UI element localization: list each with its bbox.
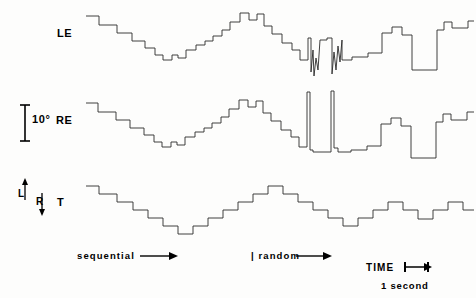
trace-label-target: T (57, 196, 64, 208)
time-axis-label: TIME (366, 262, 394, 273)
scale-bar-icon (20, 105, 30, 141)
trace-label-right-eye: RE (56, 114, 72, 126)
phase-label-random: | random (251, 250, 300, 261)
trace-target (86, 186, 474, 234)
trace-label-left-eye: LE (57, 27, 72, 39)
phase-label-sequential: sequential (77, 250, 135, 261)
trace-left-eye (86, 13, 474, 76)
trace-canvas (0, 0, 476, 298)
scale-bar-label: 10° (32, 113, 50, 125)
random-arrow-icon (296, 252, 332, 260)
time-scale-label: 1 second (381, 280, 429, 291)
sequential-arrow-icon (140, 252, 178, 260)
direction-label-left: L (18, 188, 25, 199)
direction-label-right: R (36, 196, 44, 207)
time-interval-bar-icon (405, 262, 432, 272)
trace-right-eye (86, 91, 474, 158)
figure-panel: LE RE T 10° L R sequential | random TIME… (0, 0, 476, 298)
